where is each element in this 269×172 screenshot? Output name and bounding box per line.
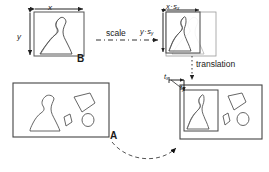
image-a-label: A [110, 131, 117, 141]
y-dimension-label: y [17, 33, 21, 41]
template-b-label: B [77, 54, 84, 64]
placed-silhouette-shape [187, 95, 209, 129]
template-box-b-group [34, 12, 84, 56]
diamond-shape-in-a [64, 114, 72, 126]
x-dimension-label: x [48, 4, 52, 12]
image-box-a-group [13, 83, 109, 137]
ellipse-shape-in-a [82, 114, 94, 127]
ellipse-shape-in-result [237, 113, 249, 126]
image-box-result-group [180, 85, 262, 139]
match-connector[interactable] [112, 142, 176, 159]
quadrilateral-shape-in-a [74, 93, 95, 112]
ty-sub: y [182, 87, 184, 92]
scaled-box-group [166, 12, 216, 56]
scaled-x-label: x·sx [166, 3, 179, 11]
diagram-canvas [0, 0, 269, 172]
scale-label: scale [106, 29, 126, 38]
silhouette-shape-in-b-inner [41, 19, 59, 54]
figure-root: x y B scale x·sx y·sy translation tx ty … [0, 0, 269, 172]
diamond-shape-in-result [223, 113, 230, 125]
placed-silhouette-shape-inner [187, 96, 201, 129]
image-box-a [13, 83, 109, 137]
silhouette-shape-in-a [30, 95, 60, 131]
ty-label: ty [180, 84, 184, 92]
tx-sub: x [166, 76, 168, 81]
tx-label: tx [164, 73, 168, 81]
scaled-y-label: y·sy [140, 28, 153, 36]
scaled-x-factor-sub: x [177, 6, 179, 11]
scaled-y-factor-sub: y [151, 31, 153, 36]
quadrilateral-shape-in-result [228, 93, 246, 110]
translation-label: translation [196, 60, 235, 69]
